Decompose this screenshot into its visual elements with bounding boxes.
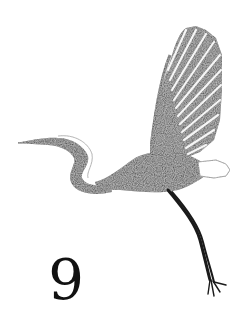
page-numeral: 9 <box>48 250 84 310</box>
heron-illustration <box>0 0 252 328</box>
neck-head <box>18 136 112 194</box>
legs <box>168 190 226 296</box>
body <box>95 152 230 193</box>
illustration-page: 9 <box>0 0 252 328</box>
wing <box>150 26 222 160</box>
